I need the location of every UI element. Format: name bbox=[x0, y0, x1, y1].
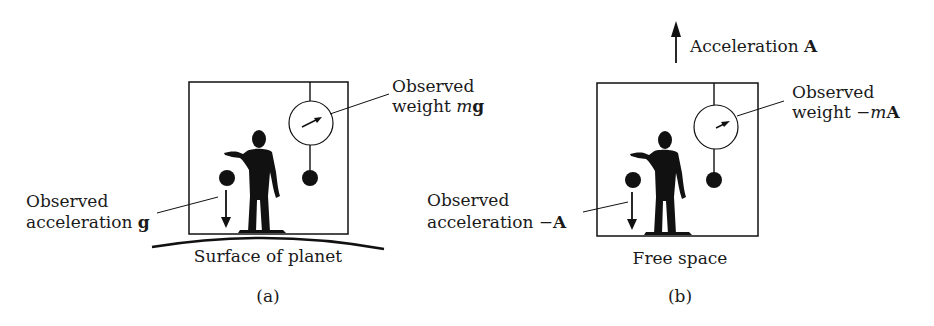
box-acceleration-label: Acceleration A bbox=[689, 36, 818, 56]
equivalence-principle-figure: Observed weight mg Observed acceleration… bbox=[0, 0, 934, 326]
scale-dial-icon bbox=[694, 105, 738, 149]
hanging-mass-icon bbox=[302, 170, 318, 186]
panel-a: Observed weight mg Observed acceleration… bbox=[26, 76, 484, 306]
acceleration-arrow-down-icon bbox=[627, 192, 637, 230]
leader-line-weight-b bbox=[737, 101, 784, 116]
leader-line-accel-b bbox=[583, 202, 628, 212]
spring-scale-a bbox=[289, 82, 333, 186]
weight-label-b-line2: weight −mA bbox=[792, 102, 900, 122]
weight-label-b-line1: Observed bbox=[792, 82, 874, 102]
caption-b: (b) bbox=[668, 286, 692, 306]
dropped-ball-icon bbox=[219, 170, 235, 186]
acceleration-arrow-up-icon bbox=[671, 21, 681, 63]
leader-line-accel-a bbox=[157, 197, 218, 213]
accel-label-b-line2: acceleration −A bbox=[427, 212, 567, 232]
dropped-ball-icon bbox=[625, 172, 641, 188]
spring-scale-b bbox=[694, 83, 738, 188]
accel-label-a-line1: Observed bbox=[26, 191, 108, 211]
leader-line-weight-a bbox=[330, 94, 389, 114]
hanging-mass-icon bbox=[706, 172, 722, 188]
acceleration-arrow-down-icon bbox=[221, 190, 231, 228]
weight-label-a-line1: Observed bbox=[392, 76, 474, 96]
caption-a: (a) bbox=[256, 286, 279, 306]
weight-label-a-line2: weight mg bbox=[392, 96, 484, 116]
panel-b: Acceleration A Observed weigh bbox=[427, 21, 900, 306]
environment-label-a: Surface of planet bbox=[194, 246, 343, 266]
accel-label-b-line1: Observed bbox=[427, 190, 509, 210]
environment-label-b: Free space bbox=[633, 248, 728, 268]
accel-label-a-line2: acceleration g bbox=[26, 212, 150, 232]
